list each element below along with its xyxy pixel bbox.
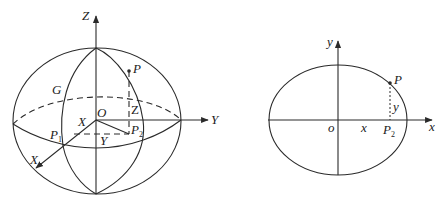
segment-x-label: x bbox=[360, 120, 367, 135]
x-axis bbox=[36, 120, 96, 168]
x-axis-label: x bbox=[428, 119, 435, 134]
point-p2-label: P 2 bbox=[382, 122, 395, 139]
z-axis-label: Z bbox=[82, 8, 90, 23]
segment-y-label: Y bbox=[100, 133, 109, 148]
svg-text:P: P bbox=[49, 127, 58, 142]
point-p-marker bbox=[127, 69, 131, 73]
point-p-marker bbox=[388, 81, 392, 85]
diagram-canvas: Z Y X O P G X Y Z P 1 P 2 y x o x y P bbox=[0, 0, 441, 204]
point-p2-label: P 2 bbox=[130, 122, 143, 139]
svg-text:1: 1 bbox=[58, 135, 62, 144]
segment-o-p2 bbox=[96, 120, 129, 134]
svg-text:2: 2 bbox=[139, 130, 143, 139]
svg-text:2: 2 bbox=[391, 130, 395, 139]
origin-label: o bbox=[328, 120, 335, 135]
segment-x-label: X bbox=[77, 114, 87, 129]
svg-text:P: P bbox=[382, 122, 391, 137]
svg-text:P: P bbox=[130, 122, 139, 137]
left-ellipsoid-figure: Z Y X O P G X Y Z P 1 P 2 bbox=[13, 8, 220, 194]
x-axis-label: X bbox=[29, 152, 39, 167]
point-p1-label: P 1 bbox=[49, 127, 62, 144]
y-axis-label: Y bbox=[211, 112, 220, 127]
right-ellipse-figure: y x o x y P P 2 bbox=[268, 34, 435, 175]
point-g-label: G bbox=[52, 82, 62, 97]
segment-z-label: Z bbox=[131, 102, 139, 117]
segment-y-label: y bbox=[391, 99, 399, 114]
point-p-label: P bbox=[393, 72, 402, 87]
y-axis-label: y bbox=[325, 34, 333, 49]
point-p-label: P bbox=[132, 61, 141, 76]
origin-label: O bbox=[97, 105, 107, 120]
